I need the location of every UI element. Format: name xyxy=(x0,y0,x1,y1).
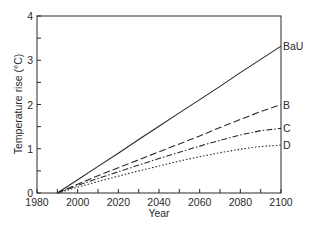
y-axis-title: Temperature rise (°C) xyxy=(12,54,24,154)
series-line-b xyxy=(57,105,281,194)
x-axis-ticks: 1980200020202040206020802100 xyxy=(25,189,293,208)
temperature-rise-chart: 01234 1980200020202040206020802100 BaUBC… xyxy=(0,0,312,231)
x-tick-label: 2080 xyxy=(229,196,253,208)
x-axis-title: Year xyxy=(148,207,170,219)
series-line-c xyxy=(57,128,281,193)
series-label-c: C xyxy=(283,122,291,134)
x-tick-label: 2060 xyxy=(188,196,212,208)
x-tick-label: 2000 xyxy=(66,196,90,208)
y-tick-label: 1 xyxy=(27,143,33,155)
y-tick-label: 2 xyxy=(27,99,33,111)
y-tick-label: 3 xyxy=(27,54,33,66)
series-label-b: B xyxy=(283,99,290,111)
series-label-bau: BaU xyxy=(283,40,303,52)
y-tick-label: 4 xyxy=(27,10,33,22)
series-label-d: D xyxy=(283,139,291,151)
x-tick-label: 1980 xyxy=(25,196,49,208)
series-line-d xyxy=(57,145,281,193)
x-tick-label: 2100 xyxy=(269,196,293,208)
series-lines xyxy=(57,46,281,193)
x-tick-label: 2020 xyxy=(107,196,131,208)
series-line-bau xyxy=(57,46,281,193)
y-axis-ticks: 01234 xyxy=(27,10,41,199)
series-labels: BaUBCD xyxy=(283,40,303,151)
